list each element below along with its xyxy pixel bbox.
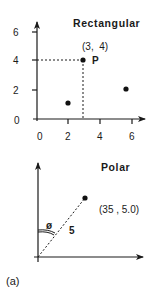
- panel-label: (a): [6, 275, 19, 287]
- rectangular-title: Rectangular: [73, 17, 140, 29]
- x-tick-4: 4: [97, 131, 103, 142]
- point-p-label: P: [92, 55, 99, 66]
- point-p: [80, 57, 85, 62]
- radius-label: 5: [69, 225, 75, 236]
- rect-x-ticks: 0 2 4 6: [37, 119, 135, 142]
- x-tick-0: 0: [37, 131, 43, 142]
- x-tick-2: 2: [65, 131, 71, 142]
- y-tick-0: 0: [14, 115, 20, 126]
- angle-label: ø: [46, 220, 53, 231]
- rectangular-plot: Rectangular 6 4 2 0 0 2 4 6: [13, 17, 145, 142]
- polar-point: [82, 195, 87, 200]
- y-tick-2: 2: [13, 85, 19, 96]
- point-2: [65, 100, 70, 105]
- point-p-coords: (3, 4): [82, 41, 108, 52]
- coordinate-systems-figure: Rectangular 6 4 2 0 0 2 4 6: [0, 0, 160, 303]
- point-3: [123, 86, 128, 91]
- rect-y-ticks: 6 4 2 0: [13, 27, 37, 126]
- polar-plot: Polar ø 5 (35 , 5.0): [34, 161, 143, 262]
- polar-title: Polar: [101, 161, 130, 173]
- y-tick-4: 4: [13, 55, 19, 66]
- polar-point-coords: (35 , 5.0): [99, 204, 139, 215]
- y-tick-6: 6: [13, 27, 19, 38]
- x-tick-6: 6: [129, 131, 135, 142]
